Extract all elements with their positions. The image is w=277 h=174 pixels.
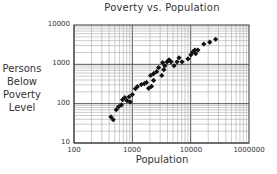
- data-point: [151, 78, 156, 83]
- data-point: [179, 59, 184, 64]
- plot-area: [0, 0, 277, 174]
- plot-frame: [74, 25, 249, 143]
- data-point: [201, 41, 206, 46]
- grid-lines: [74, 25, 249, 143]
- data-point: [185, 56, 190, 61]
- data-point: [213, 37, 218, 42]
